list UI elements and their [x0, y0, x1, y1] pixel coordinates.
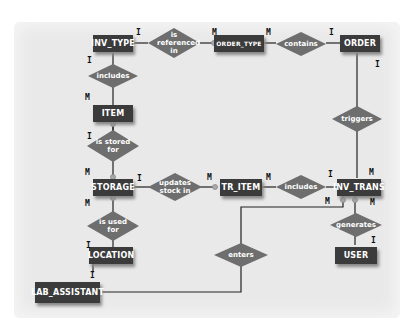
entity-order[interactable]: ORDER	[340, 35, 380, 52]
cardinality-label: M	[266, 173, 271, 182]
entity-location[interactable]: LOCATION	[89, 247, 133, 264]
cardinality-label: M	[266, 28, 271, 37]
cardinality-label: I	[137, 174, 142, 183]
entity-lab-assistant[interactable]: LAB_ASSISTANT	[35, 282, 100, 303]
cardinality-label: M	[85, 168, 90, 177]
cardinality-label: M	[325, 197, 330, 206]
cardinality-label: I	[375, 60, 380, 69]
cardinality-label: M	[85, 93, 90, 102]
relationship-enters[interactable]: enters	[214, 243, 268, 267]
cardinality-label: I	[86, 241, 91, 250]
relationship-is-referenced-in[interactable]: is referenced in	[148, 28, 200, 58]
cardinality-label: I	[371, 236, 376, 245]
relationship-is-stored-for[interactable]: is stored for	[87, 130, 139, 162]
cardinality-label: I	[87, 56, 92, 65]
relationship-label: contains	[284, 40, 318, 48]
relationship-label: enters	[228, 251, 253, 259]
entity-item[interactable]: ITEM	[93, 105, 133, 122]
cardinality-label: M	[212, 28, 217, 37]
entity-inv-trans[interactable]: INV_TRANS	[337, 179, 381, 196]
entity-tr-item[interactable]: TR_ITEM	[220, 179, 262, 196]
cardinality-label: I	[136, 28, 141, 37]
relationship-label: triggers	[341, 115, 373, 123]
entity-inv-type[interactable]: INV_TYPE	[93, 35, 133, 52]
relationship-label: generates	[336, 221, 376, 229]
relationship-triggers[interactable]: triggers	[332, 106, 382, 132]
cardinality-label: M	[207, 173, 212, 182]
relationship-is-used-for[interactable]: is used for	[87, 211, 139, 241]
relationship-includes-tr-item[interactable]: includes	[276, 175, 326, 199]
cardinality-label: I	[328, 170, 333, 179]
relationship-label: is stored for	[95, 138, 131, 154]
cardinality-label: M	[369, 168, 374, 177]
relationship-generates[interactable]: generates	[330, 213, 382, 237]
relationship-label: updates stock in	[157, 179, 193, 195]
relationship-label: includes	[97, 72, 130, 80]
entity-user[interactable]: USER	[335, 247, 377, 264]
cardinality-label: M	[85, 199, 90, 208]
relationship-label: is referenced in	[157, 31, 191, 55]
cardinality-label: I	[329, 28, 334, 37]
relationship-label: includes	[285, 183, 318, 191]
cardinality-label: M	[370, 198, 375, 207]
relationship-includes-item[interactable]: includes	[88, 64, 138, 88]
cardinality-label: I	[87, 132, 92, 141]
entity-storage[interactable]: STORAGE	[93, 179, 133, 196]
relationship-contains[interactable]: contains	[276, 32, 326, 56]
relationship-label: is used for	[97, 218, 129, 234]
relationship-updates-stock-in[interactable]: updates stock in	[148, 173, 202, 201]
entity-order-type[interactable]: ORDER_TYPE	[214, 35, 264, 52]
cardinality-label: I	[90, 271, 95, 280]
